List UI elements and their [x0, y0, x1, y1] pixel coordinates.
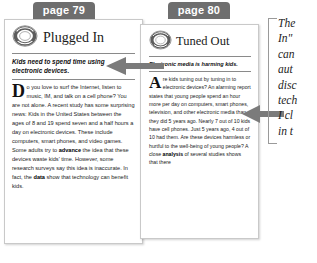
body-text-part-1-left: o you love to surf the Internet, listen …	[12, 84, 135, 153]
page-tab-79[interactable]: page 79	[33, 2, 95, 19]
article-header-right: Tuned Out	[149, 30, 251, 57]
note-line: The	[278, 16, 317, 31]
note-line: in t	[278, 124, 317, 139]
article-masthead-right: Tuned Out	[176, 35, 229, 48]
body-bold-advance: advance	[59, 147, 81, 153]
note-line: I cl	[278, 108, 317, 123]
article-card-tuned-out[interactable]: Tuned Out Electronic media is harming ki…	[140, 24, 259, 239]
slide-canvas: page 79 page 80 Plugged In Kids need to …	[0, 0, 317, 263]
article-masthead-left: Plugged In	[43, 31, 104, 46]
circular-ring-logo-icon	[149, 30, 172, 54]
body-bold-analysis: analysis	[163, 151, 183, 157]
note-line: tech	[278, 93, 317, 108]
note-line: disc	[278, 78, 317, 93]
note-line: In"	[278, 31, 317, 46]
handwritten-annotation: The In" can aut disc tech I cl in t	[278, 16, 317, 139]
article-body-left: Do you love to surf the Internet, listen…	[12, 83, 135, 192]
dropcap-left: D	[12, 84, 27, 98]
note-line: aut	[278, 62, 317, 77]
page-tab-80[interactable]: page 80	[168, 2, 230, 19]
circular-ring-logo-icon	[12, 25, 38, 51]
note-line: can	[278, 47, 317, 62]
article-body-right: Are kids tuning out by tuning in to elec…	[149, 75, 251, 166]
left-bracket-icon	[268, 18, 277, 144]
body-bold-data: data	[33, 174, 45, 180]
dropcap-right: A	[149, 76, 163, 89]
article-header-left: Plugged In	[12, 25, 135, 54]
article-card-plugged-in[interactable]: Plugged In Kids need to spend time using…	[4, 19, 143, 244]
body-text-part-1-right: re kids tuning out by tuning in to elect…	[149, 76, 251, 157]
article-standfirst-left: Kids need to spend time using electronic…	[12, 57, 135, 80]
article-standfirst-right: Electronic media is harming kids.	[149, 60, 251, 72]
